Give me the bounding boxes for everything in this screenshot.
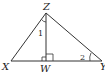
angle-1-arc (42, 20, 47, 23)
vertex-w-label: W (40, 63, 51, 74)
right-angle-mark-right (46, 54, 53, 61)
angle-1-label: 1 (38, 29, 43, 38)
angle-2-label: 2 (80, 53, 85, 62)
vertex-x-label: X (1, 61, 10, 72)
side-zy (46, 13, 102, 61)
right-angle-mark-left (42, 57, 46, 61)
triangle-diagram: Z X W Y 1 2 (0, 0, 105, 75)
vertex-y-label: Y (100, 61, 105, 72)
angle-2-arc (90, 53, 91, 61)
vertex-z-label: Z (42, 1, 51, 12)
